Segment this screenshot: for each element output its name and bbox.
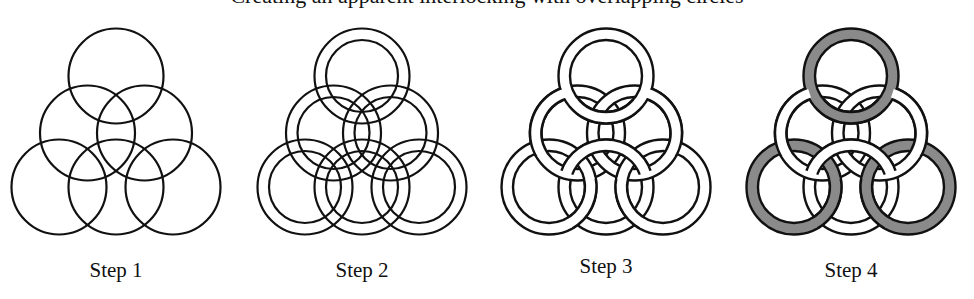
circle-2 (40, 86, 135, 181)
step-4-figure (752, 34, 950, 229)
circle-3 (97, 86, 192, 181)
ring-inner-2 (298, 97, 370, 169)
ring-inner-6 (383, 151, 455, 223)
ring-inner-1 (326, 40, 398, 112)
circle-6 (126, 140, 221, 235)
step-3-label: Step 3 (579, 254, 632, 279)
ring-inner-4 (269, 151, 341, 223)
interlocking-circles-diagram (0, 0, 974, 299)
circle-4 (12, 140, 107, 235)
step-1-label: Step 1 (89, 258, 142, 283)
circle-5 (69, 140, 164, 235)
ring-inner-3 (355, 97, 427, 169)
step-2-label: Step 2 (335, 258, 388, 283)
ring-inner-5 (326, 151, 398, 223)
step-4-label: Step 4 (824, 258, 877, 283)
step-2-figure (258, 29, 467, 235)
step-1-figure (12, 29, 221, 235)
step-3-figure (507, 34, 705, 229)
circle-1 (69, 29, 164, 124)
